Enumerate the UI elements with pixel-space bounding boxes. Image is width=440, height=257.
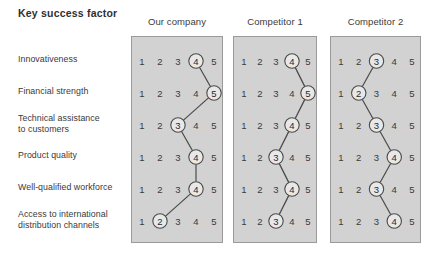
svg-text:2: 2 (356, 88, 361, 99)
svg-text:1: 1 (139, 120, 144, 131)
column-header-competitor-1: Competitor 1 (233, 16, 317, 27)
svg-text:4: 4 (289, 120, 294, 131)
svg-text:1: 1 (139, 56, 144, 67)
svg-text:1: 1 (338, 152, 343, 163)
svg-text:5: 5 (409, 216, 414, 227)
svg-text:3: 3 (273, 216, 278, 227)
svg-text:1: 1 (338, 56, 343, 67)
svg-text:5: 5 (409, 88, 414, 99)
competitive-profile-chart: Key success factor Our company Competito… (0, 0, 440, 257)
svg-text:1: 1 (338, 120, 343, 131)
svg-text:1: 1 (139, 88, 144, 99)
svg-text:4: 4 (193, 216, 198, 227)
svg-text:2: 2 (257, 88, 262, 99)
svg-text:1: 1 (241, 216, 246, 227)
svg-text:2: 2 (356, 152, 361, 163)
row-label-innovativeness: Innovativeness (18, 54, 77, 65)
svg-text:2: 2 (157, 216, 162, 227)
svg-text:1: 1 (338, 216, 343, 227)
rating-scale-svg: 123451234512345123451234512345 (132, 37, 224, 244)
row-label-line2: to customers (18, 124, 100, 135)
svg-text:4: 4 (289, 152, 294, 163)
svg-text:3: 3 (374, 120, 379, 131)
svg-text:4: 4 (193, 56, 198, 67)
svg-text:3: 3 (273, 120, 278, 131)
svg-text:3: 3 (175, 216, 180, 227)
svg-text:3: 3 (273, 88, 278, 99)
svg-text:4: 4 (193, 120, 198, 131)
svg-text:4: 4 (289, 56, 294, 67)
row-label-line1: Product quality (18, 150, 77, 161)
svg-text:3: 3 (175, 184, 180, 195)
row-label-access-to-international: Access to international distribution cha… (18, 209, 108, 231)
svg-text:3: 3 (175, 120, 180, 131)
svg-text:2: 2 (157, 88, 162, 99)
svg-text:3: 3 (273, 184, 278, 195)
column-header-competitor-2: Competitor 2 (330, 16, 421, 27)
svg-text:2: 2 (356, 216, 361, 227)
svg-text:2: 2 (257, 120, 262, 131)
rating-panel-our-company: 123451234512345123451234512345 (131, 36, 223, 243)
svg-text:5: 5 (409, 184, 414, 195)
svg-text:5: 5 (211, 120, 216, 131)
svg-text:4: 4 (193, 152, 198, 163)
svg-text:5: 5 (211, 56, 216, 67)
row-label-line2: distribution channels (18, 220, 108, 231)
svg-text:5: 5 (305, 216, 310, 227)
svg-text:5: 5 (305, 152, 310, 163)
svg-text:3: 3 (175, 88, 180, 99)
svg-text:1: 1 (338, 184, 343, 195)
svg-text:4: 4 (392, 216, 397, 227)
svg-text:5: 5 (211, 152, 216, 163)
row-label-product-quality: Product quality (18, 150, 77, 161)
rating-scale-svg: 123451234512345123451234512345 (331, 37, 422, 244)
svg-text:1: 1 (241, 152, 246, 163)
svg-text:2: 2 (356, 56, 361, 67)
svg-text:3: 3 (273, 152, 278, 163)
svg-text:1: 1 (139, 216, 144, 227)
page-title: Key success factor (18, 7, 117, 19)
svg-text:1: 1 (139, 152, 144, 163)
row-label-well-qualified-workforce: Well-qualified workforce (18, 182, 112, 193)
row-label-line1: Financial strength (18, 86, 88, 97)
svg-text:4: 4 (392, 88, 397, 99)
svg-text:1: 1 (139, 184, 144, 195)
svg-text:2: 2 (157, 152, 162, 163)
svg-text:3: 3 (175, 152, 180, 163)
svg-text:5: 5 (305, 56, 310, 67)
svg-text:5: 5 (305, 184, 310, 195)
svg-text:4: 4 (392, 56, 397, 67)
svg-text:5: 5 (305, 120, 310, 131)
svg-text:4: 4 (392, 152, 397, 163)
svg-text:3: 3 (374, 56, 379, 67)
svg-text:4: 4 (193, 88, 198, 99)
svg-text:2: 2 (257, 56, 262, 67)
svg-text:2: 2 (257, 152, 262, 163)
svg-text:4: 4 (289, 184, 294, 195)
svg-text:5: 5 (409, 56, 414, 67)
svg-text:2: 2 (356, 184, 361, 195)
svg-text:2: 2 (356, 120, 361, 131)
svg-text:4: 4 (392, 120, 397, 131)
svg-text:5: 5 (409, 152, 414, 163)
row-label-line1: Well-qualified workforce (18, 182, 112, 193)
svg-text:5: 5 (211, 216, 216, 227)
row-label-line1: Innovativeness (18, 54, 77, 65)
rating-panel-competitor-1: 123451234512345123451234512345 (233, 36, 317, 243)
svg-text:2: 2 (257, 184, 262, 195)
svg-text:2: 2 (157, 56, 162, 67)
svg-text:4: 4 (392, 184, 397, 195)
svg-text:2: 2 (157, 184, 162, 195)
svg-text:4: 4 (193, 184, 198, 195)
svg-text:1: 1 (338, 88, 343, 99)
svg-text:3: 3 (374, 152, 379, 163)
rating-panel-competitor-2: 123451234512345123451234512345 (330, 36, 421, 243)
svg-text:3: 3 (273, 56, 278, 67)
svg-text:1: 1 (241, 56, 246, 67)
svg-text:1: 1 (241, 120, 246, 131)
row-label-financial-strength: Financial strength (18, 86, 88, 97)
svg-text:5: 5 (305, 88, 310, 99)
rating-scale-svg: 123451234512345123451234512345 (234, 37, 318, 244)
svg-text:3: 3 (175, 56, 180, 67)
svg-text:1: 1 (241, 88, 246, 99)
